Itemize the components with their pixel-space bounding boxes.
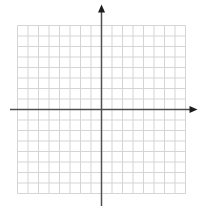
coordinate-plane-svg xyxy=(0,0,202,221)
coordinate-plane xyxy=(0,0,202,221)
